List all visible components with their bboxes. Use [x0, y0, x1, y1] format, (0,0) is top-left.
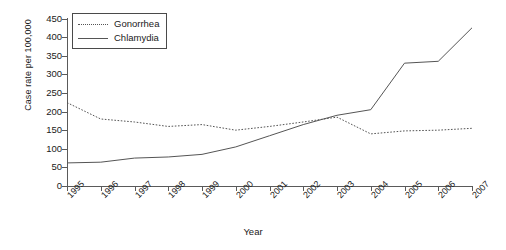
legend-label-gonorrhea: Gonorrhea	[114, 19, 159, 29]
y-axis-tick-labels: 450400350300250200150100500	[32, 0, 62, 250]
legend-item-chlamydia: Chlamydia	[78, 31, 159, 45]
y-tick-mark	[62, 167, 67, 168]
y-tick-mark	[62, 149, 67, 150]
chart-legend: Gonorrhea Chlamydia	[72, 13, 167, 49]
y-tick-label: 450	[32, 14, 62, 24]
y-tick-mark	[62, 130, 67, 131]
y-tick-label: 150	[32, 125, 62, 135]
y-tick-label: 200	[32, 107, 62, 117]
legend-item-gonorrhea: Gonorrhea	[78, 17, 159, 31]
y-tick-label: 0	[32, 181, 62, 191]
y-tick-mark	[62, 74, 67, 75]
dotted-line-key-icon	[78, 24, 108, 25]
chart-figure: Case rate per 100,000 450400350300250200…	[0, 0, 506, 250]
y-tick-mark	[62, 56, 67, 57]
solid-line-key-icon	[78, 38, 108, 39]
y-tick-label: 300	[32, 69, 62, 79]
y-tick-mark	[62, 112, 67, 113]
y-tick-mark	[62, 19, 67, 20]
y-tick-label: 250	[32, 88, 62, 98]
y-tick-label: 400	[32, 32, 62, 42]
y-tick-label: 50	[32, 162, 62, 172]
y-tick-label: 350	[32, 51, 62, 61]
y-tick-label: 100	[32, 144, 62, 154]
y-tick-mark	[62, 93, 67, 94]
x-tick-label: 2007	[470, 179, 491, 200]
legend-label-chlamydia: Chlamydia	[114, 33, 159, 43]
y-tick-mark	[62, 37, 67, 38]
series-line-gonorrhea	[67, 103, 472, 134]
x-axis-title: Year	[0, 226, 506, 237]
